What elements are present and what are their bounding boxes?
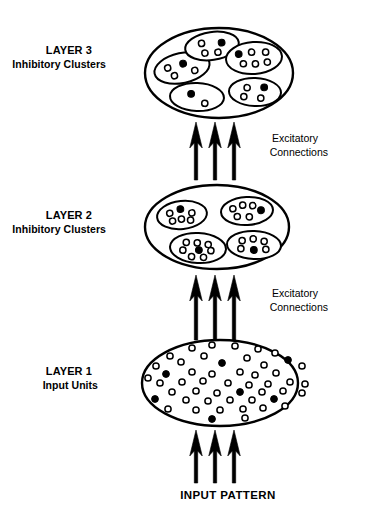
excitatory-unit bbox=[180, 247, 187, 254]
excitatory-unit bbox=[265, 381, 271, 387]
excitatory-unit bbox=[205, 241, 212, 248]
excitatory-unit bbox=[209, 342, 215, 348]
excitatory-unit bbox=[239, 237, 245, 243]
input-pattern-label: INPUT PATTERN bbox=[180, 489, 276, 501]
excitatory-unit bbox=[157, 380, 163, 386]
excitatory-unit bbox=[248, 49, 255, 56]
excitatory-unit bbox=[238, 245, 244, 251]
excitatory-unit bbox=[183, 239, 190, 246]
excitatory-arrow bbox=[190, 275, 203, 340]
inhibitory-unit bbox=[209, 416, 216, 423]
excitatory-unit bbox=[187, 217, 194, 224]
cluster-boundary bbox=[229, 77, 282, 107]
inhibitory-unit bbox=[163, 371, 170, 378]
inhibitory-unit bbox=[218, 39, 226, 47]
excitatory-unit bbox=[242, 415, 248, 421]
inhibitory-unit bbox=[237, 389, 244, 396]
excitatory-top-label-line1: Excitatory bbox=[272, 132, 319, 144]
excitatory-unit bbox=[230, 205, 237, 212]
excitatory-unit bbox=[299, 390, 305, 396]
excitatory-unit bbox=[249, 397, 255, 403]
inhibitory-cluster bbox=[170, 82, 225, 112]
inhibitory-unit bbox=[177, 205, 184, 212]
excitatory-unit bbox=[188, 210, 195, 217]
excitatory-unit bbox=[287, 379, 293, 385]
excitatory-unit bbox=[244, 355, 250, 361]
excitatory-unit bbox=[273, 370, 279, 376]
layer-1-subtitle: Input Units bbox=[43, 379, 98, 391]
excitatory-unit bbox=[166, 210, 173, 217]
excitatory-arrow bbox=[209, 275, 222, 340]
excitatory-unit bbox=[241, 93, 247, 99]
excitatory-unit bbox=[237, 369, 243, 375]
excitatory-unit bbox=[167, 353, 173, 359]
inhibitory-unit bbox=[195, 246, 202, 253]
excitatory-unit bbox=[240, 60, 247, 67]
excitatory-unit bbox=[239, 202, 246, 209]
excitatory-unit bbox=[200, 378, 206, 384]
excitatory-arrow bbox=[228, 275, 241, 340]
excitatory-unit bbox=[252, 372, 258, 378]
excitatory-unit bbox=[214, 390, 220, 396]
excitatory-unit bbox=[234, 213, 241, 220]
inhibitory-unit bbox=[250, 246, 257, 253]
inhibitory-cluster bbox=[227, 230, 282, 260]
excitatory-unit bbox=[263, 246, 269, 252]
excitatory-unit bbox=[261, 362, 267, 368]
excitatory-unit bbox=[280, 388, 286, 394]
layer-2-subtitle: Inhibitory Clusters bbox=[12, 223, 106, 235]
excitatory-unit bbox=[165, 406, 171, 412]
arrows-l2-to-l3 bbox=[190, 122, 241, 180]
excitatory-unit bbox=[227, 397, 233, 403]
excitatory-unit bbox=[217, 407, 223, 413]
excitatory-unit bbox=[145, 375, 151, 381]
excitatory-unit bbox=[250, 236, 256, 242]
cluster-boundary bbox=[170, 82, 225, 112]
network-diagram: LAYER 3 Inhibitory Clusters LAYER 2 Inhi… bbox=[0, 0, 372, 523]
excitatory-unit bbox=[193, 407, 199, 413]
inhibitory-unit bbox=[188, 90, 195, 97]
excitatory-unit bbox=[252, 61, 259, 68]
inhibitory-unit bbox=[271, 396, 278, 403]
excitatory-unit bbox=[299, 363, 305, 369]
excitatory-unit bbox=[262, 49, 269, 56]
excitatory-unit bbox=[246, 214, 253, 221]
excitatory-unit bbox=[255, 346, 261, 352]
layer-2-title: LAYER 2 bbox=[46, 209, 92, 221]
excitatory-arrow bbox=[209, 122, 222, 180]
inhibitory-unit bbox=[152, 396, 159, 403]
excitatory-unit bbox=[194, 240, 201, 247]
excitatory-unit bbox=[244, 85, 250, 91]
excitatory-bottom-label-line2: Connections bbox=[270, 301, 328, 313]
inhibitory-unit bbox=[261, 84, 268, 91]
inhibitory-unit bbox=[257, 207, 264, 214]
excitatory-unit bbox=[214, 49, 221, 56]
arrows-input-to-l1 bbox=[190, 430, 241, 483]
excitatory-unit bbox=[169, 218, 176, 225]
layer-2-group bbox=[145, 185, 289, 269]
excitatory-unit bbox=[164, 64, 171, 71]
excitatory-unit bbox=[193, 388, 199, 394]
inhibitory-cluster bbox=[229, 77, 282, 107]
cluster-boundary bbox=[227, 230, 282, 260]
arrows-l1-to-l2 bbox=[190, 275, 241, 340]
excitatory-unit bbox=[179, 379, 185, 385]
excitatory-unit bbox=[302, 381, 308, 387]
excitatory-arrow bbox=[190, 122, 203, 180]
excitatory-unit bbox=[261, 238, 267, 244]
excitatory-arrow bbox=[228, 122, 241, 180]
excitatory-unit bbox=[249, 202, 256, 209]
excitatory-arrow bbox=[228, 430, 241, 483]
excitatory-unit bbox=[208, 247, 215, 254]
inhibitory-unit bbox=[219, 360, 226, 367]
excitatory-unit bbox=[202, 100, 208, 106]
inhibitory-unit bbox=[235, 50, 242, 57]
excitatory-unit bbox=[272, 350, 278, 356]
excitatory-unit bbox=[260, 405, 266, 411]
excitatory-unit bbox=[240, 406, 246, 412]
excitatory-unit bbox=[153, 363, 159, 369]
excitatory-unit bbox=[201, 353, 207, 359]
excitatory-unit bbox=[189, 369, 195, 375]
excitatory-unit bbox=[178, 359, 184, 365]
excitatory-unit bbox=[200, 254, 207, 261]
